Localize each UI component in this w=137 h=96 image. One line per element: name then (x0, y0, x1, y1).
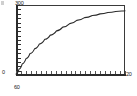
y-axis-min-label: 0 (2, 69, 5, 75)
y-axis-max-label: 300 (15, 0, 24, 6)
curve-path (16, 11, 125, 74)
chart-figure: 300 0 60 20 (0, 0, 137, 96)
scan-artifact-mark (1, 1, 4, 5)
data-series-curve (16, 5, 125, 75)
x-axis-max-label: 20 (126, 71, 132, 77)
y-axis-tick (18, 75, 21, 76)
x-axis-min-label: 60 (14, 84, 20, 90)
